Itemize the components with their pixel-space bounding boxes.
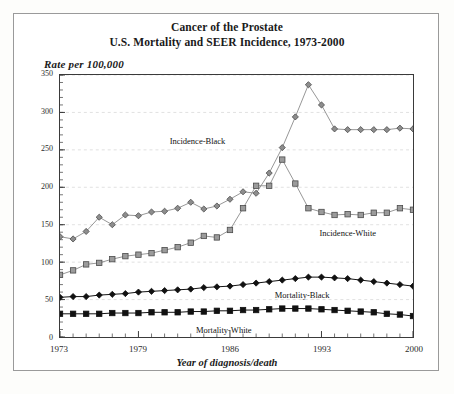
series-label-incidence-black: Incidence-Black: [170, 136, 226, 146]
x-tick-label: 1986: [207, 344, 253, 354]
series-label-mortality-white: Mortality-White: [196, 325, 252, 335]
y-tick-label: 150: [23, 220, 53, 229]
figure-page: Cancer of the Prostate U.S. Mortality an…: [0, 0, 454, 394]
series-mortality-black: [60, 274, 413, 300]
chart-title-line-1: Cancer of the Prostate: [0, 20, 454, 35]
series-incidence-white: [60, 157, 413, 278]
y-tick-label: 0: [23, 333, 53, 342]
y-tick-label: 350: [23, 69, 53, 78]
y-tick-label: 100: [23, 258, 53, 267]
chart-title-line-2: U.S. Mortality and SEER Incidence, 1973-…: [0, 35, 454, 50]
x-axis-caption: Year of diagnosis/death: [0, 357, 454, 368]
chart-titles: Cancer of the Prostate U.S. Mortality an…: [0, 20, 454, 50]
chart-canvas: [60, 75, 413, 337]
y-tick-label: 200: [23, 182, 53, 191]
series-label-mortality-black: Mortality-Black: [275, 290, 330, 300]
plot-area: [59, 74, 414, 338]
y-tick-label: 300: [23, 107, 53, 116]
x-tick-label: 2000: [391, 344, 437, 354]
x-tick-label: 1973: [36, 344, 82, 354]
y-axis-caption: Rate per 100,000: [44, 58, 124, 70]
series-label-incidence-white: Incidence-White: [319, 228, 376, 238]
x-tick-label: 1993: [299, 344, 345, 354]
x-tick-label: 1979: [115, 344, 161, 354]
series-mortality-white: [60, 306, 413, 319]
y-tick-label: 50: [23, 295, 53, 304]
y-tick-label: 250: [23, 144, 53, 153]
